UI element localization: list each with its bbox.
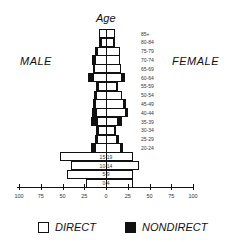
female-nondirect-bar [121,73,125,82]
male-label: MALE [20,55,52,67]
chart-title: Age [96,12,116,24]
age-group-label: 30-34 [141,127,154,133]
x-tick-label: 50 [59,193,65,199]
age-group-label: 20-24 [141,145,154,151]
x-tick-label: 75 [168,193,174,199]
x-tick [84,184,85,190]
x-tick [150,184,151,190]
x-tick-label: 100 [188,193,197,199]
age-group-label: 65-69 [141,66,154,72]
age-group-label: 50-54 [141,92,154,98]
nondirect-swatch-icon [125,222,136,233]
x-tick [128,184,129,190]
x-tick-label: 0 [104,193,107,199]
x-tick-label: 75 [38,193,44,199]
age-group-label: 25-29 [141,136,154,142]
legend-nondirect-label: NONDIRECT [142,221,207,233]
age-group-label: 45-49 [141,101,154,107]
x-tick [106,184,107,190]
female-nondirect-bar [117,117,121,126]
x-tick [19,184,20,190]
x-tick-label: 25 [81,193,87,199]
x-tick-label: 100 [14,193,23,199]
legend-direct-label: DIRECT [55,221,96,233]
x-tick [41,184,42,190]
x-tick-label: 50 [146,193,152,199]
age-group-label: 35-39 [141,119,154,125]
legend-nondirect: NONDIRECT [125,221,207,233]
age-group-label: 55-59 [141,83,154,89]
age-group-label: 85+ [141,31,149,37]
x-tick-label: 25 [125,193,131,199]
male-nondirect-bar [88,73,93,82]
age-group-label: 60-64 [141,75,154,81]
age-group-label: 40-44 [141,110,154,116]
center-axis-line [106,30,107,190]
age-group-label: 80-84 [141,39,154,45]
direct-swatch-icon [38,222,49,233]
x-tick [63,184,64,190]
female-nondirect-bar [125,108,128,117]
legend-direct: DIRECT [38,221,96,233]
female-label: FEMALE [172,55,219,67]
age-group-label: 70-74 [141,57,154,63]
age-group-label: 75-79 [141,48,154,54]
x-tick [171,184,172,190]
x-tick [193,184,194,190]
